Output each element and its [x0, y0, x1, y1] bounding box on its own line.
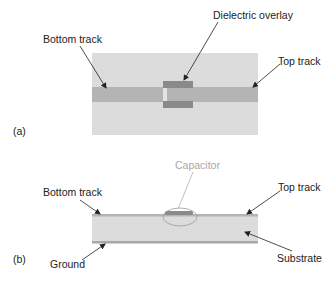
label-bottom-track-b: Bottom track: [43, 186, 102, 198]
bottom-track-a: [92, 87, 163, 102]
label-dielectric-overlay: Dielectric overlay: [213, 9, 293, 21]
arrow-top-track-b: [247, 191, 280, 214]
label-top-track-a: Top track: [278, 55, 321, 67]
label-bottom-track-a: Bottom track: [43, 33, 102, 45]
capacitor-leader: [178, 172, 193, 209]
arrow-bottom-track-b: [80, 200, 100, 214]
panel-b-cross-section: [80, 172, 292, 260]
label-capacitor: Capacitor: [175, 159, 220, 171]
label-ground: Ground: [50, 258, 85, 270]
panel-a-tag: (a): [13, 125, 26, 137]
panel-b-tag: (b): [13, 253, 26, 265]
overlay-bottom-bar: [163, 101, 193, 108]
capacitor-overlay: [165, 211, 193, 215]
overlay-middle-track: [167, 88, 193, 101]
overlay-left-edge: [163, 88, 167, 101]
overlay-top-bar: [163, 81, 193, 88]
label-top-track-b: Top track: [278, 181, 321, 193]
arrow-ground: [82, 244, 105, 260]
label-substrate: Substrate: [277, 252, 322, 264]
ground-plane: [92, 241, 258, 244]
panel-a-top-view: [80, 22, 280, 135]
substrate-b: [92, 216, 258, 241]
